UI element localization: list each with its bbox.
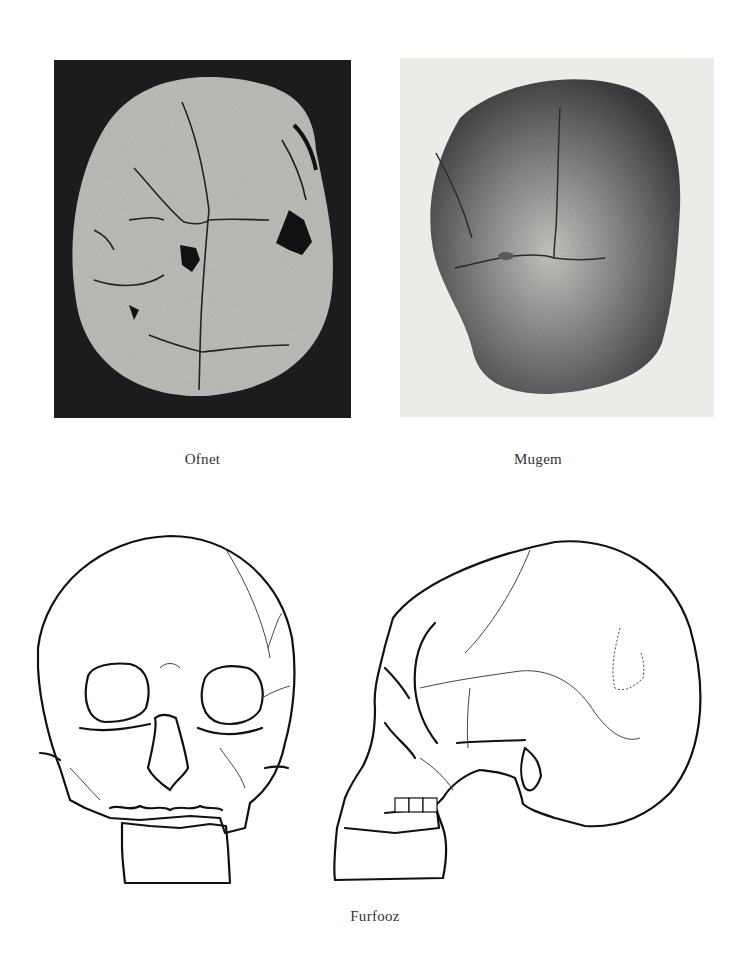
- furfooz-skull-side-drawing: [325, 528, 710, 888]
- furfooz-skull-front-drawing: [30, 528, 305, 898]
- ofnet-skull-photo: [54, 60, 351, 418]
- furfooz-front-image: [30, 528, 305, 898]
- furfooz-caption: Furfooz: [320, 908, 430, 925]
- ofnet-caption: Ofnet: [150, 451, 255, 468]
- mugem-caption: Mugem: [478, 451, 598, 468]
- mugem-skull-image: [400, 58, 714, 417]
- ofnet-skull-image: [54, 60, 351, 418]
- mugem-skull-photo: [400, 58, 714, 417]
- furfooz-side-image: [325, 528, 710, 888]
